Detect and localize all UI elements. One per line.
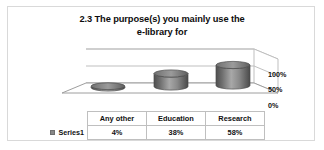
table-corner-cell [30,112,87,126]
legend-series1-label: Series1 [58,128,84,137]
table-value-any-other: 4% [87,126,146,140]
axis-tick-0: 0% [268,101,278,110]
value-axis: 100% 50% 0% [264,45,312,111]
table-value-research: 58% [205,126,264,140]
chart-title-line-2: e-library for [42,26,282,39]
bar-any-other [91,83,125,91]
axis-tick-100: 100% [268,70,286,79]
axis-tick-50: 50% [268,85,282,94]
table-header-education: Education [146,112,205,126]
table-row-categories: Any other Education Research [30,112,265,126]
chart-title-line-1: 2.3 The purpose(s) you mainly use the [42,13,282,26]
bar-education [154,70,188,90]
plot-3d-svg [30,45,298,111]
chart-screenshot: 2.3 The purpose(s) you mainly use the e-… [0,0,324,150]
table-header-any-other: Any other [87,112,146,126]
table-value-education: 38% [146,126,205,140]
chart-title: 2.3 The purpose(s) you mainly use the e-… [42,13,282,38]
legend-series1: Series1 [30,126,87,140]
bar-research [216,61,250,89]
table-header-research: Research [205,112,264,126]
legend-swatch-icon [50,130,55,135]
chart-data-table: Any other Education Research Series1 4% … [30,111,265,140]
chart-container: 2.3 The purpose(s) you mainly use the e-… [7,6,315,141]
table-row-series1: Series1 4% 38% 58% [30,126,265,140]
plot-area [30,45,298,110]
